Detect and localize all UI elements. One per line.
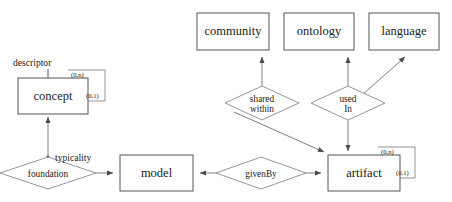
relationship-used-in-label-line1: used (339, 94, 356, 104)
entity-concept-label: concept (34, 89, 73, 103)
entity-language[interactable]: language (369, 13, 439, 50)
entity-concept[interactable]: concept (18, 78, 88, 114)
edge-label-descriptor: descriptor (13, 57, 52, 68)
relationship-used-in-label-line2: In (344, 104, 352, 114)
edge-usedin-language (362, 57, 405, 95)
entity-ontology[interactable]: ontology (284, 13, 354, 50)
relationship-shared-within-label-line2: within (250, 104, 274, 114)
cardinality-concept-loop-min: (0,1) (86, 92, 99, 100)
cardinality-artifact-loop-min: (0,1) (396, 169, 409, 177)
entity-community-label: community (205, 24, 263, 38)
er-diagram-canvas: concept model artifact community ontolog… (0, 0, 452, 202)
entity-community[interactable]: community (197, 13, 269, 50)
edge-label-typicality: typicality (55, 152, 91, 163)
relationship-foundation-label: foundation (28, 169, 69, 179)
er-diagram: concept model artifact community ontolog… (0, 0, 452, 202)
relationship-used-in[interactable]: used In (311, 86, 385, 120)
entity-model[interactable]: model (120, 155, 193, 191)
cardinality-concept-loop-max: (0,n) (71, 71, 84, 79)
relationship-shared-within-label-line1: shared (250, 94, 275, 104)
entity-artifact-label: artifact (346, 166, 382, 180)
entity-ontology-label: ontology (297, 24, 342, 38)
cardinality-artifact-loop-max: (0,n) (381, 148, 394, 156)
edge-sharedwithin-artifact (234, 112, 324, 152)
entity-artifact[interactable]: artifact (328, 155, 400, 191)
relationship-shared-within[interactable]: shared within (225, 86, 299, 120)
relationship-givenby-label: givenBy (245, 169, 277, 179)
relationship-givenby[interactable]: givenBy (216, 157, 306, 189)
entity-model-label: model (141, 166, 173, 180)
entity-language-label: language (381, 24, 427, 38)
